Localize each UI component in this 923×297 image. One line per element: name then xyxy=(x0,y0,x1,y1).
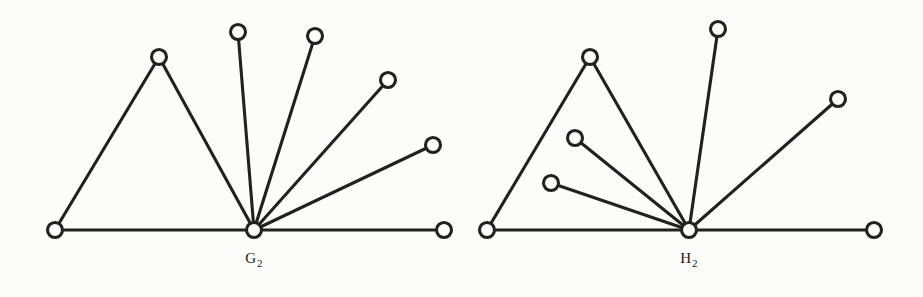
graph-edge xyxy=(689,29,718,230)
vertex-group-g2 xyxy=(48,25,452,238)
graph-vertex xyxy=(381,73,396,88)
graph-label-base: G xyxy=(245,250,256,266)
graph-label-subscript: 2 xyxy=(257,257,263,269)
graph-edge xyxy=(254,36,315,230)
graph-vertex xyxy=(568,131,583,146)
graph-vertex xyxy=(48,223,63,238)
graph-vertex xyxy=(231,25,246,40)
graph-edge xyxy=(689,99,838,230)
graph-label-h2: H2 xyxy=(680,250,698,269)
graph-edge xyxy=(254,80,388,230)
graph-figure: G2 H2 xyxy=(0,0,923,297)
graph-vertex xyxy=(480,223,495,238)
graph-edge xyxy=(575,138,689,230)
graph-vertex xyxy=(583,50,598,65)
graph-vertex xyxy=(247,223,262,238)
graph-edge xyxy=(254,145,433,230)
graph-edge xyxy=(590,57,689,230)
edge-group-g2 xyxy=(55,32,444,230)
graph-edge xyxy=(55,57,159,230)
edge-group-h2 xyxy=(487,29,874,230)
graph-vertex xyxy=(437,223,452,238)
graph-vertex xyxy=(711,22,726,37)
graph-vertex xyxy=(867,223,882,238)
graph-vertex xyxy=(682,223,697,238)
graph-label-base: H xyxy=(680,250,691,266)
graph-vertex xyxy=(831,92,846,107)
graph-vertex xyxy=(544,176,559,191)
graph-label-g2: G2 xyxy=(245,250,263,269)
graph-canvas xyxy=(0,0,923,297)
graph-edge xyxy=(238,32,254,230)
graph-vertex xyxy=(152,50,167,65)
graph-vertex xyxy=(426,138,441,153)
vertex-group-h2 xyxy=(480,22,882,238)
graph-label-subscript: 2 xyxy=(692,257,698,269)
graph-edge xyxy=(159,57,254,230)
graph-vertex xyxy=(308,29,323,44)
graph-edge xyxy=(551,183,689,230)
